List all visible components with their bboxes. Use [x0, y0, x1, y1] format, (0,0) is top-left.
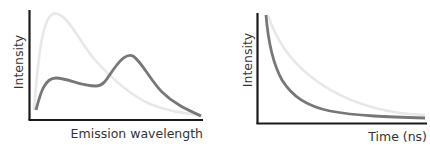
- left-x-axis-label: Emission wavelength: [71, 126, 203, 141]
- right-y-axis-label: Intensity: [240, 32, 255, 87]
- dark-decay-curve: [266, 15, 425, 118]
- dark-spectrum-curve: [36, 55, 201, 116]
- light-decay-curve: [268, 15, 425, 115]
- lifetime-decay-chart: Intensity Time (ns): [240, 13, 427, 144]
- right-x-axis-label: Time (ns): [367, 129, 427, 144]
- left-y-axis-label: Intensity: [11, 34, 26, 89]
- emission-spectrum-chart: Intensity Emission wavelength: [11, 10, 203, 141]
- figure: Intensity Emission wavelength Intensity …: [0, 0, 430, 149]
